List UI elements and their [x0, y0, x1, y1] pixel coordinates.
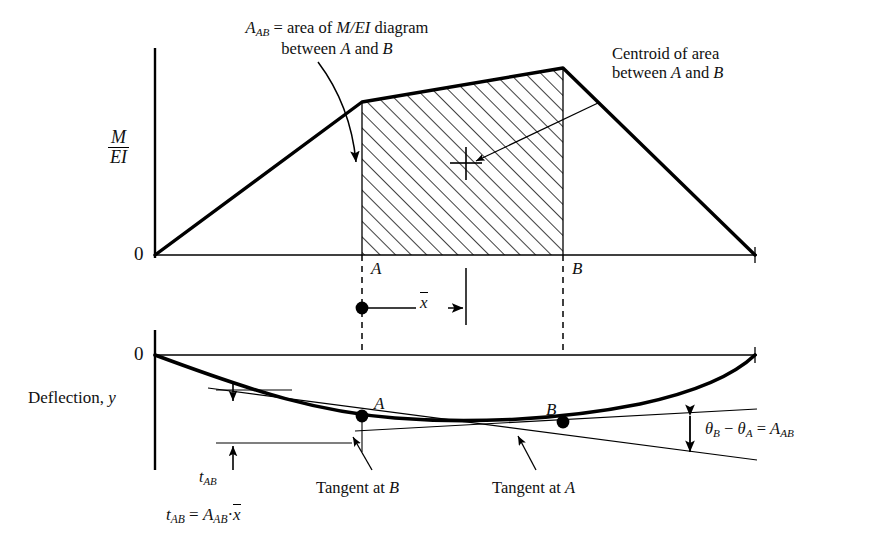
- mei-axis-label: M EI: [108, 128, 129, 168]
- eq-equals: =: [185, 505, 203, 524]
- area-annotation-a-sub: AB: [256, 26, 270, 38]
- area-annotation-line1: AAB = area of M/EI diagram: [222, 18, 452, 39]
- xbar-label: x: [420, 293, 428, 313]
- deflection-axis-label-text: Deflection,: [28, 388, 108, 407]
- area-annotation-mei: M/EI: [336, 18, 370, 37]
- deflection-axis-label: Deflection, y: [28, 388, 116, 408]
- mei-point-a-label: A: [371, 259, 381, 279]
- theta-b: θ: [705, 419, 713, 438]
- eq-a: A: [203, 505, 213, 524]
- t-ab-dimension: [216, 390, 352, 470]
- theta-equals: =: [753, 419, 771, 438]
- mei-numerator: M: [108, 128, 129, 147]
- theta-b-sub: B: [713, 427, 720, 439]
- theta-a-sub: A: [746, 427, 753, 439]
- t-ab-sub: AB: [203, 475, 216, 487]
- tangent-a-leader: [518, 436, 536, 470]
- area-annotation-tail: diagram: [370, 18, 428, 37]
- area-annotation-eq: = area of: [269, 18, 336, 37]
- deflection-point-a-label: A: [374, 394, 384, 414]
- centroid-annotation-line2: between A and B: [612, 63, 812, 82]
- figure-root: AAB = area of M/EI diagram between A and…: [0, 0, 872, 558]
- theta-minus: −: [720, 419, 738, 438]
- area-annotation: AAB = area of M/EI diagram between A and…: [222, 18, 452, 59]
- tangent-at-a-label: Tangent at A: [492, 478, 575, 497]
- theta-a: θ: [738, 419, 746, 438]
- beam-moment-area-diagram: [0, 0, 872, 558]
- theta-rhs-sub: AB: [780, 427, 794, 439]
- xbar-var: x: [420, 293, 428, 313]
- mei-denominator: EI: [108, 147, 129, 167]
- tangent-at-b-label: Tangent at B: [316, 478, 399, 497]
- elastic-curve: [155, 355, 755, 421]
- centroid-annotation: Centroid of area between A and B: [612, 44, 812, 83]
- mei-zero-label: 0: [134, 243, 144, 265]
- t-ab-label: tAB: [199, 468, 217, 488]
- area-annotation-line2: between A and B: [222, 39, 452, 58]
- deflection-point-b-label: B: [546, 400, 556, 420]
- eq-xbar: x: [233, 505, 241, 525]
- point-b-marker: [557, 416, 570, 429]
- eq-a-sub: AB: [213, 513, 227, 526]
- theta-rhs-a: A: [770, 419, 780, 438]
- deflection-zero-label: 0: [134, 343, 144, 365]
- theta-equation: θB − θA = AAB: [705, 419, 794, 440]
- deflection-axis-label-var: y: [108, 388, 116, 407]
- mei-point-b-label: B: [572, 259, 582, 279]
- t-ab-equation: tAB = AAB·x: [166, 505, 241, 527]
- area-annotation-a: A: [246, 18, 256, 37]
- centroid-annotation-line1: Centroid of area: [612, 44, 812, 63]
- eq-t-sub: AB: [171, 513, 185, 526]
